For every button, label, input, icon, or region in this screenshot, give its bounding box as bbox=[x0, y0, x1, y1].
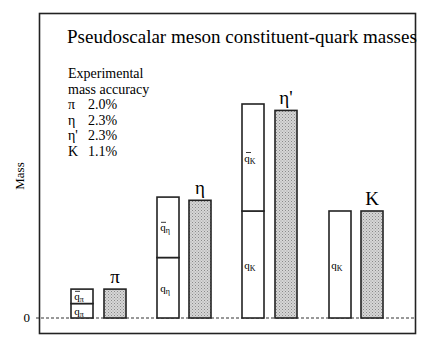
meson-mass-bar bbox=[361, 211, 383, 318]
meson-label: η' bbox=[279, 87, 292, 108]
legend-symbol: π bbox=[68, 97, 75, 112]
legend-value: 1.1% bbox=[88, 144, 118, 159]
y-axis-label: Mass bbox=[12, 162, 27, 189]
chart: Pseudoscalar meson constituent-quark mas… bbox=[0, 0, 426, 350]
meson-mass-bar bbox=[104, 289, 126, 318]
plot-frame bbox=[40, 14, 416, 334]
legend-heading: Experimental bbox=[68, 66, 144, 81]
y-tick-zero: 0 bbox=[24, 310, 31, 325]
legend-value: 2.3% bbox=[88, 128, 118, 143]
legend-symbol: η bbox=[68, 113, 75, 128]
meson-mass-bar bbox=[189, 200, 211, 318]
legend-value: 2.0% bbox=[88, 97, 118, 112]
meson-label: η bbox=[195, 177, 205, 198]
meson-label: K bbox=[365, 188, 379, 209]
legend-value: 2.3% bbox=[88, 113, 118, 128]
legend-heading: mass accuracy bbox=[68, 82, 149, 97]
chart-title: Pseudoscalar meson constituent-quark mas… bbox=[67, 26, 417, 47]
meson-label: π bbox=[110, 266, 120, 287]
bars: qπqππqηqηηqKqKη'qKK bbox=[71, 87, 383, 318]
legend-symbol: K bbox=[68, 144, 78, 159]
meson-mass-bar bbox=[275, 110, 297, 318]
legend-symbol: η' bbox=[68, 128, 78, 143]
legend: Experimentalmass accuracyπ2.0%η2.3%η'2.3… bbox=[68, 66, 149, 159]
